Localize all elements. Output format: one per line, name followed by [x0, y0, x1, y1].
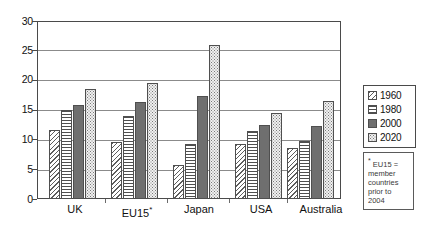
bar-eu15-1960 [111, 142, 122, 199]
y-axis-label-0: 0 [7, 194, 33, 204]
legend-label-1980: 1980 [380, 104, 401, 115]
footnote-line-4: prior to [368, 187, 410, 196]
bar-uk-2000 [73, 105, 84, 199]
bar-group-eu15 [111, 21, 161, 199]
y-axis-label-25: 25 [7, 45, 33, 55]
bar-australia-1980 [299, 141, 310, 199]
legend-swatch-2000-icon [368, 119, 377, 128]
x-axis-label-eu15: EU15* [106, 203, 168, 220]
bar-usa-1960 [235, 144, 246, 199]
y-axis-tick-0 [32, 199, 37, 200]
bar-australia-2000 [311, 126, 322, 199]
bar-uk-1980 [61, 110, 72, 199]
footnote-line-1: * EU15 = [368, 156, 410, 169]
footnote-asterisk: * [368, 157, 371, 164]
bar-group-australia [287, 21, 337, 199]
y-axis-label-5: 5 [7, 164, 33, 174]
bar-usa-2020 [271, 113, 282, 199]
bars-layer [37, 21, 341, 199]
bar-group-usa [235, 21, 285, 199]
y-axis-label-20: 20 [7, 74, 33, 84]
bar-japan-2020 [209, 45, 220, 199]
bar-japan-2000 [197, 96, 208, 199]
bar-eu15-2000 [135, 102, 146, 199]
x-axis-label-australia: Australia [288, 203, 354, 216]
x-axis-label-usa: USA [230, 203, 292, 216]
legend-item-2000: 2000 [368, 117, 412, 130]
y-axis-label-30: 30 [7, 16, 33, 26]
legend-label-2020: 2020 [380, 132, 401, 143]
footnote-line-3: countries [368, 178, 410, 187]
legend-swatch-2020-icon [368, 133, 377, 142]
bar-eu15-2020 [147, 83, 158, 199]
legend-item-2020: 2020 [368, 131, 412, 144]
x-axis-label-uk: UK [44, 203, 106, 216]
x-axis-label-japan: Japan [168, 203, 230, 216]
bar-uk-1960 [49, 130, 60, 199]
legend-label-2000: 2000 [380, 118, 401, 129]
bar-group-japan [173, 21, 223, 199]
y-axis-label-10: 10 [7, 134, 33, 144]
bar-japan-1960 [173, 165, 184, 199]
bar-eu15-1980 [123, 116, 134, 199]
legend-item-1960: 1960 [368, 89, 412, 102]
footnote-text-1: EU15 = [373, 160, 398, 169]
footnote-line-5: 2004 [368, 196, 410, 205]
x-axis-label-eu15-text: EU15 [122, 207, 150, 219]
legend-swatch-1980-icon [368, 105, 377, 114]
bar-japan-1980 [185, 144, 196, 199]
footnote-line-2: member [368, 169, 410, 178]
bar-group-uk [49, 21, 99, 199]
legend-swatch-1960-icon [368, 91, 377, 100]
legend-label-1960: 1960 [380, 90, 401, 101]
eu15-footnote: * EU15 = member countries prior to 2004 [363, 152, 414, 210]
legend: 1960 1980 2000 2020 [363, 85, 416, 148]
legend-item-1980: 1980 [368, 103, 412, 116]
bar-uk-2020 [85, 89, 96, 199]
y-axis-label-15: 15 [7, 104, 33, 114]
bar-australia-2020 [323, 101, 334, 199]
bar-chart: 30 25 20 15 10 5 0 [0, 0, 427, 237]
bar-usa-1980 [247, 131, 258, 199]
bar-australia-1960 [287, 148, 298, 199]
x-axis-label-eu15-asterisk: * [149, 205, 152, 214]
bar-usa-2000 [259, 125, 270, 199]
